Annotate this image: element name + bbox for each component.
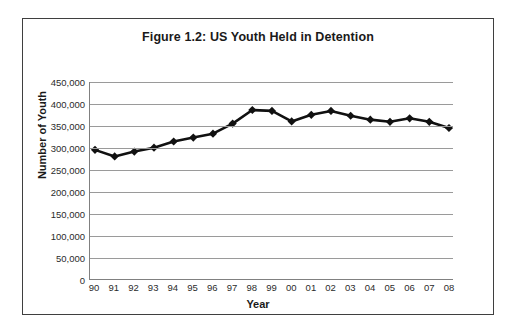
data-point-marker: [425, 118, 433, 126]
y-axis-tick-label: 0: [80, 275, 85, 286]
x-axis-tick-label: 93: [148, 282, 159, 293]
gridline: [90, 214, 453, 215]
data-point-marker: [111, 152, 119, 160]
data-point-marker: [327, 107, 335, 115]
x-axis-tick-label: 05: [385, 282, 396, 293]
data-series-line: [90, 82, 453, 279]
chart-title: Figure 1.2: US Youth Held in Detention: [23, 30, 493, 44]
y-axis-tick-label: 400,000: [51, 99, 85, 110]
plot-area: [89, 82, 453, 280]
gridline: [90, 170, 453, 171]
x-axis-tick-label: 91: [108, 282, 119, 293]
y-axis-tick-labels: 050,000100,000150,000200,000250,000300,0…: [31, 82, 85, 280]
x-axis-tick-label: 01: [306, 282, 317, 293]
x-axis-tick-label: 04: [365, 282, 376, 293]
x-axis-tick-label: 06: [404, 282, 415, 293]
data-point-marker: [347, 112, 355, 120]
data-point-marker: [366, 116, 374, 124]
gridline: [90, 82, 453, 83]
x-axis-tick-label: 03: [345, 282, 356, 293]
y-axis-tick-label: 200,000: [51, 187, 85, 198]
x-axis-tick-label: 92: [128, 282, 139, 293]
gridline: [90, 192, 453, 193]
x-axis-tick-label: 02: [325, 282, 336, 293]
y-axis-tick-label: 150,000: [51, 209, 85, 220]
y-axis-tick-label: 250,000: [51, 165, 85, 176]
series-line: [95, 110, 449, 156]
data-point-marker: [189, 134, 197, 142]
y-axis-tick-label: 100,000: [51, 231, 85, 242]
gridline: [90, 104, 453, 105]
x-axis-tick-label: 94: [168, 282, 179, 293]
data-point-marker: [170, 137, 178, 145]
x-axis-tick-label: 97: [227, 282, 238, 293]
y-axis-tick-label: 350,000: [51, 121, 85, 132]
x-axis-tick-label: 08: [444, 282, 455, 293]
x-axis-title: Year: [23, 298, 493, 310]
data-point-marker: [91, 146, 99, 154]
x-axis-tick-label: 90: [89, 282, 100, 293]
data-point-marker: [307, 111, 315, 119]
x-axis-tick-label: 98: [246, 282, 257, 293]
figure-frame: Figure 1.2: US Youth Held in Detention N…: [22, 18, 494, 315]
data-point-marker: [406, 114, 414, 122]
x-axis-tick-label: 00: [286, 282, 297, 293]
data-point-marker: [386, 118, 394, 126]
gridline: [90, 258, 453, 259]
y-axis-tick-label: 50,000: [56, 253, 85, 264]
gridline: [90, 148, 453, 149]
x-axis-tick-label: 95: [187, 282, 198, 293]
gridline: [90, 236, 453, 237]
x-axis-tick-labels: 90919293949596979899000102030405060708: [89, 282, 453, 298]
gridline: [90, 126, 453, 127]
x-axis-tick-label: 99: [266, 282, 277, 293]
y-axis-tick-label: 450,000: [51, 77, 85, 88]
y-axis-tick-label: 300,000: [51, 143, 85, 154]
x-axis-tick-label: 07: [424, 282, 435, 293]
x-axis-tick-label: 96: [207, 282, 218, 293]
